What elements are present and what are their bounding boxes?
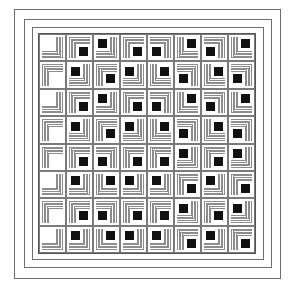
center-square [152,102,161,111]
center-square [106,231,115,240]
quilt-block [174,34,201,61]
quilt-block [120,226,147,253]
center-square [71,231,80,240]
center-square [214,67,223,76]
center-square [133,157,142,166]
center-square [233,129,242,138]
quilt-block [120,144,147,171]
center-square [187,94,196,103]
center-square [214,122,223,131]
quilt-block [66,61,93,88]
quilt-block-grid [38,33,256,254]
quilt-block [39,226,66,253]
quilt-block [147,198,174,225]
quilt-block [93,89,120,116]
stripe-line [42,37,57,52]
quilt-block [120,171,147,198]
quilt-block [39,89,66,116]
quilt-block [93,171,120,198]
center-square [133,102,142,111]
quilt-block [174,144,201,171]
quilt-block [147,34,174,61]
quilt-block [93,198,120,225]
center-square [206,47,215,56]
center-square [125,176,134,185]
quilt-block [174,61,201,88]
center-square [98,157,107,166]
stripe-line [48,208,63,223]
center-square [71,67,80,76]
quilt-block [66,198,93,225]
quilt-block [39,61,66,88]
quilt-block [120,198,147,225]
quilt-block [174,198,201,225]
stripe-line [42,174,57,189]
quilt-block [147,61,174,88]
center-square [187,239,196,248]
center-square [125,122,134,131]
quilt-block [174,226,201,253]
center-square [187,184,196,193]
quilt-block [201,171,228,198]
quilt-block [228,198,255,225]
center-square [79,102,88,111]
quilt-block [66,144,93,171]
center-square [106,74,115,83]
center-square [179,204,188,213]
quilt-block [174,116,201,143]
quilt-block [201,116,228,143]
center-square [71,176,80,185]
center-square [214,157,223,166]
stripe-line [42,229,57,244]
quilt-block [66,89,93,116]
center-square [233,204,242,213]
center-square [79,47,88,56]
center-square [160,67,169,76]
center-square [133,211,142,220]
center-square [106,176,115,185]
center-square [160,211,169,220]
quilt-block [120,61,147,88]
quilt-block [39,34,66,61]
center-square [214,211,223,220]
quilt-block [147,226,174,253]
quilt-block [201,198,228,225]
center-square [98,94,107,103]
quilt-block [93,116,120,143]
quilt-block [228,34,255,61]
quilt-block [39,116,66,143]
quilt-block [228,226,255,253]
quilt-block [39,198,66,225]
center-square [152,231,161,240]
center-square [241,184,250,193]
quilt-block [39,144,66,171]
center-square [98,211,107,220]
center-square [206,176,215,185]
center-square [179,74,188,83]
quilt-block [66,171,93,198]
quilt-block [147,89,174,116]
quilt-block [147,144,174,171]
quilt-block [66,226,93,253]
quilt-block [39,171,66,198]
center-square [206,231,215,240]
quilt-block [66,116,93,143]
center-square [241,94,250,103]
center-square [179,149,188,158]
center-square [160,122,169,131]
quilt-block [174,171,201,198]
center-square [79,157,88,166]
quilt-block [228,171,255,198]
quilt-block [120,34,147,61]
center-square [133,47,142,56]
quilt-block [201,61,228,88]
center-square [71,122,80,131]
quilt-block [93,226,120,253]
center-square [233,149,242,158]
quilt-block [201,226,228,253]
quilt-block [93,34,120,61]
center-square [125,231,134,240]
stripe-line [48,71,63,86]
center-square [179,129,188,138]
center-square [241,239,250,248]
